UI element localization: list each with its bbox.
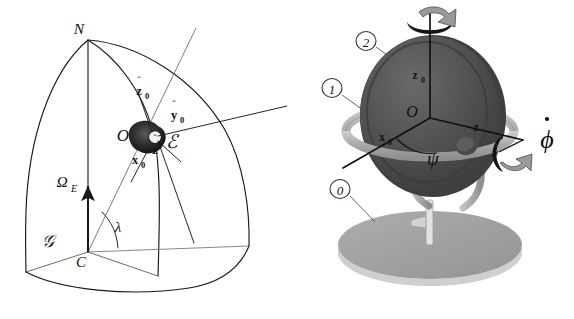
equatorial-line-right [88,246,249,252]
svg-text:2: 2 [363,35,370,50]
svg-text:E: E [70,183,77,194]
gyroscope-svg: ϕ O z 0 x 0 z ψ [287,0,574,319]
svg-text:O: O [406,103,418,120]
svg-text:0: 0 [180,115,184,125]
leader-line-0 [350,196,375,222]
label-y0-hat: ˆ y 0 [171,100,184,125]
svg-text:x: x [379,131,385,143]
svg-text:z: z [473,121,478,133]
label-psi-angle: ψ [427,148,440,169]
label-z-axis: z [473,121,478,133]
leader-line-1 [342,95,363,110]
svg-text:1: 1 [329,82,336,97]
svg-text:ϕ: ϕ [540,125,553,154]
octant-left-meridian [26,40,88,272]
label-north-pole: N [73,20,86,37]
svg-text:Ω: Ω [56,173,67,190]
label-frame-e: ℰ [166,131,180,152]
label-origin-O: O [117,126,129,145]
svg-text:0: 0 [337,183,344,198]
equatorial-line-mid [88,252,158,276]
svg-text:z: z [152,143,158,157]
gyroscope-gimbal-diagram: ϕ O z 0 x 0 z ψ [287,0,574,319]
earth-frame-svg: N C O Ω E λ 𝒢 ℰ ˆ z 0 ˆ y 0 [0,0,287,319]
label-earth-rate: Ω E [56,173,77,194]
label-phi-rate: ϕ [540,117,553,154]
e-frame-ray [158,141,194,243]
inner-rotor-disk [360,35,506,197]
svg-text:0: 0 [421,76,425,85]
label-frame-g: 𝒢 [42,232,57,251]
label-z0-hat: ˆ z 0 [136,76,149,101]
body-number-2: 2 [356,32,376,51]
label-latitude-lambda: λ [114,219,122,235]
svg-text:y: y [171,108,178,122]
figure-root: N C O Ω E λ 𝒢 ℰ ˆ z 0 ˆ y 0 [0,0,574,319]
label-origin-O-right: O [406,103,418,120]
svg-text:z: z [136,84,142,98]
svg-text:0: 0 [145,91,149,101]
svg-text:x: x [132,153,139,167]
body-number-1: 1 [322,79,342,98]
svg-text:0: 0 [388,138,392,147]
svg-text:0: 0 [141,160,145,170]
svg-text:z: z [412,69,417,81]
label-center-C: C [76,254,87,270]
body-number-0: 0 [330,180,350,199]
earth-frame-diagram: N C O Ω E λ 𝒢 ℰ ˆ z 0 ˆ y 0 [0,0,287,319]
spin-arrow-top [407,7,456,34]
